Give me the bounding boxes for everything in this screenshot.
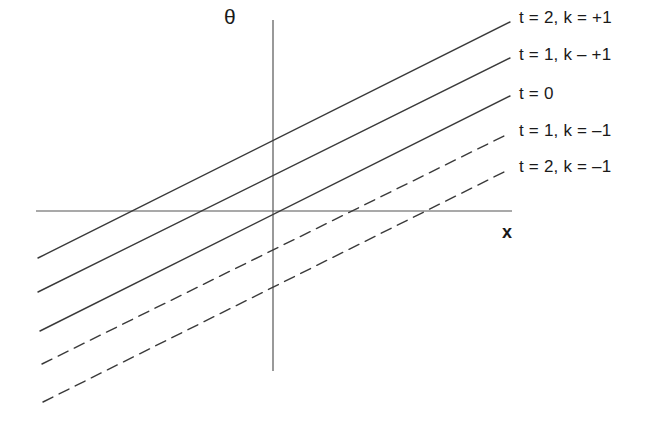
series-label-t2-kplus1: t = 2, k = +1 [519, 8, 612, 28]
y-axis-label: θ [224, 5, 236, 29]
axes-group [36, 20, 512, 371]
series-label-t1-kplus1: t = 1, k – +1 [519, 45, 611, 65]
series-line-t2-kminus1 [43, 169, 510, 402]
series-line-t1-kminus1 [42, 133, 510, 364]
figure-canvas: θ x t = 2, k = +1 t = 1, k – +1 t = 0 t … [0, 0, 649, 424]
series-lines [38, 22, 510, 402]
series-label-t1-kminus1: t = 1, k = –1 [519, 121, 611, 141]
series-line-t2-kplus1 [38, 22, 510, 258]
x-axis-label: x [502, 222, 512, 243]
series-line-t0 [40, 96, 510, 331]
series-line-t1-kplus1 [38, 58, 510, 292]
series-label-t0: t = 0 [519, 84, 554, 104]
series-label-t2-kminus1: t = 2, k = –1 [519, 157, 611, 177]
